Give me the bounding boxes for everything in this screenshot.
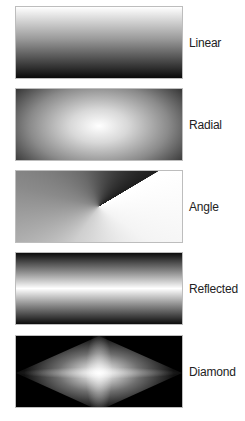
gradient-label-linear: Linear [189,6,221,80]
gradient-row-angle: Angle [0,170,245,244]
angle-gradient-swatch [15,170,183,243]
radial-gradient-swatch [15,88,183,161]
gradient-label-radial: Radial [189,88,222,162]
gradient-row-diamond: Diamond [0,335,245,409]
gradient-row-radial: Radial [0,88,245,162]
diamond-glow [16,336,182,407]
gradient-label-reflected: Reflected [189,252,238,326]
gradient-label-diamond: Diamond [189,335,236,409]
gradient-label-angle: Angle [189,170,219,244]
gradient-row-linear: Linear [0,6,245,80]
linear-gradient-swatch [15,6,183,79]
diamond-gradient-swatch [15,335,183,408]
gradient-row-reflected: Reflected [0,252,245,326]
reflected-gradient-swatch [15,252,183,325]
